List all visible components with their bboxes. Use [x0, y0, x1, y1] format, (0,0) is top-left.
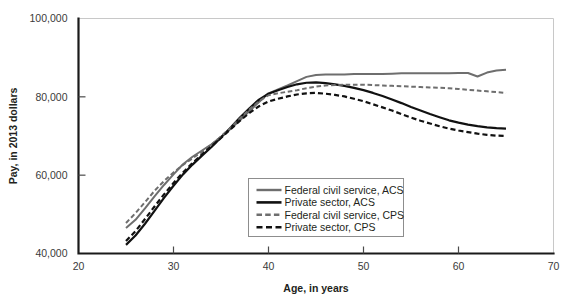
y-tick-label: 80,000	[35, 91, 67, 103]
y-axis-ticks: 40,00060,00080,000100,000	[30, 12, 86, 259]
x-tick-label: 20	[73, 260, 85, 272]
x-tick-label: 40	[263, 260, 275, 272]
chart-figure: 40,00060,00080,000100,000 203040506070 P…	[0, 0, 582, 303]
legend-label-0[interactable]: Federal civil service, ACS	[285, 184, 404, 196]
legend-label-1[interactable]: Private sector, ACS	[285, 196, 375, 208]
line-chart: 40,00060,00080,000100,000 203040506070 P…	[0, 0, 582, 303]
x-axis-title: Age, in years	[283, 282, 349, 294]
y-tick-label: 100,000	[30, 12, 68, 24]
y-tick-label: 40,000	[35, 247, 67, 259]
chart-legend[interactable]: Federal civil service, ACSPrivate sector…	[249, 179, 405, 237]
y-tick-label: 60,000	[35, 169, 67, 181]
x-axis-ticks: 203040506070	[73, 247, 560, 272]
x-tick-label: 50	[358, 260, 370, 272]
y-axis-title: Pay, in 2013 dollars	[7, 88, 19, 185]
x-tick-label: 70	[548, 260, 560, 272]
x-tick-label: 60	[453, 260, 465, 272]
x-tick-label: 30	[168, 260, 180, 272]
legend-label-3[interactable]: Private sector, CPS	[285, 221, 376, 233]
legend-label-2[interactable]: Federal civil service, CPS	[285, 209, 405, 221]
